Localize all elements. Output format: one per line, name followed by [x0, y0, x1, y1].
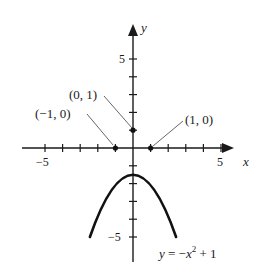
right-intercept-point — [148, 145, 153, 150]
y-tick-label-5: 5 — [119, 52, 125, 66]
leader-lines — [87, 96, 183, 146]
vertex-label: (0, 1) — [69, 87, 97, 102]
x-tick-label-neg5: −5 — [36, 155, 49, 169]
equation-label: y = −x2 + 1 — [157, 244, 217, 261]
x-axis-arrow-icon — [222, 143, 234, 153]
vertex-point — [130, 128, 135, 133]
x-tick-label-5: 5 — [217, 155, 223, 169]
left-intercept-point — [113, 145, 118, 150]
parabola-figure: −5 5 x 5 −5 y — [0, 0, 264, 274]
y-axis-arrow-icon — [128, 24, 138, 36]
y-axis-label: y — [139, 20, 147, 35]
x-axis: −5 5 x — [22, 143, 249, 169]
left-intercept-label: (−1, 0) — [35, 106, 71, 121]
y-axis: 5 −5 y — [108, 20, 147, 262]
y-tick-label-neg5: −5 — [108, 230, 121, 244]
right-intercept-label: (1, 0) — [185, 112, 213, 127]
x-axis-label: x — [242, 154, 249, 169]
